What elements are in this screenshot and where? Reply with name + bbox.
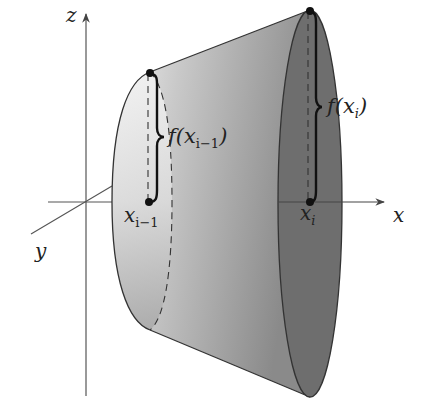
z-axis-label: z	[65, 3, 77, 27]
right-top-point	[306, 7, 314, 15]
y-axis-label: y	[34, 239, 47, 263]
f-x-i-label: f(xi)	[325, 94, 367, 121]
x-axis-label: x	[393, 203, 404, 227]
left-base-point	[145, 198, 153, 206]
left-cap	[112, 72, 172, 330]
left-top-point	[146, 69, 154, 77]
axes	[31, 14, 114, 396]
y-axis	[31, 186, 112, 234]
solid-of-revolution-diagram: z y x xi−1 xi f(xi−1) f(xi)	[0, 0, 432, 414]
